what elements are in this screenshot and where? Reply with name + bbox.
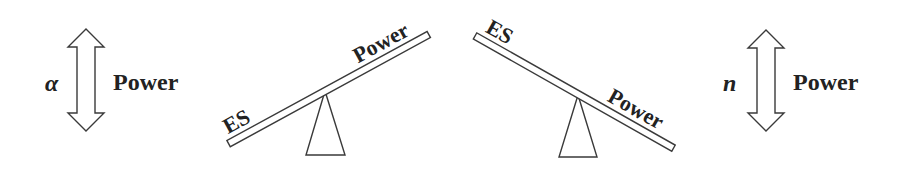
n-symbol: n (723, 70, 736, 96)
double-arrow-icon (748, 30, 784, 131)
alpha-symbol: α (45, 70, 59, 96)
seesaw-right: ES Power (473, 11, 687, 157)
left-panel: α Power (45, 29, 179, 131)
power-label-left: Power (113, 69, 179, 95)
right-panel: n Power (723, 30, 859, 131)
power-label-right: Power (793, 69, 859, 95)
seesaw-left: ES Power (215, 9, 430, 155)
seesaw-diagram: α Power ES Power ES Power n Power (0, 0, 914, 169)
double-arrow-icon (68, 29, 104, 131)
